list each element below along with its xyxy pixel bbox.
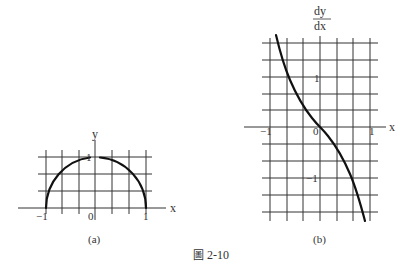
panel-b-y-label-numerator: dy: [314, 4, 326, 18]
figure-caption-number: 2-10: [207, 248, 229, 262]
panel-b-tick-x-neg1: −1: [260, 125, 272, 137]
panel-b-x-label: x: [389, 120, 395, 134]
panel-a-tick-x-neg1: −1: [36, 210, 48, 222]
panel-b-tick-y-neg1: −1: [306, 172, 318, 184]
panel-a-tick-x-1: 1: [143, 210, 149, 222]
panel-a: y x 1 −1 0 1 (a): [18, 127, 176, 246]
panel-b-tick-x-0: 0: [313, 125, 319, 137]
panel-b-tick-y-1: 1: [314, 72, 320, 84]
panel-a-semicircle-curve: [46, 158, 146, 209]
panel-a-y-label: y: [92, 127, 98, 141]
panel-b-y-label-denominator: dx: [314, 19, 326, 33]
panel-b-tick-x-1: 1: [369, 125, 375, 137]
panel-a-tick-y-1: 1: [86, 151, 92, 163]
figure-caption: 圖 2-10: [193, 248, 229, 262]
figure-caption-icon: 圖: [193, 249, 204, 261]
panel-a-caption: (a): [88, 233, 101, 246]
figure-canvas: y x 1 −1 0 1 (a): [0, 0, 418, 264]
panel-a-tick-x-0: 0: [88, 210, 94, 222]
panel-b-caption: (b): [313, 233, 326, 246]
panel-b: dy dx x 1 −1 −1 0 1 (b): [244, 4, 395, 246]
panel-a-x-label: x: [170, 201, 176, 215]
